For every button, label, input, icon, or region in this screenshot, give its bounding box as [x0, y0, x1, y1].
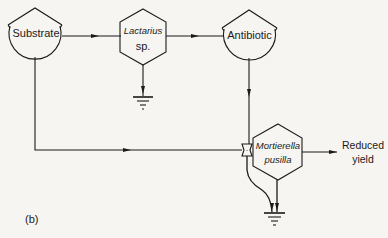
substrate-label: Substrate: [10, 27, 62, 39]
heat-sink-1: [133, 97, 153, 109]
output-label-line1: Reduced: [340, 139, 386, 151]
energy-flow-diagram: - Substrate Lactarius sp. Antibiotic Mor…: [0, 0, 388, 238]
panel-label: (b): [25, 213, 38, 225]
heat-sink-2: [264, 213, 285, 225]
lactarius-hexagon-shape: [120, 9, 166, 65]
lactarius-label-species: sp.: [120, 40, 166, 52]
mortierella-label-species: pusilla: [253, 154, 303, 165]
svg-text:-: -: [246, 147, 248, 153]
output-label-line2: yield: [340, 153, 386, 165]
flow-substrate-workgate: [35, 57, 242, 150]
lactarius-label-genus: Lactarius: [120, 25, 166, 36]
mortierella-label-genus: Mortierella: [253, 140, 303, 151]
mortierella-hexagon-shape: [253, 124, 302, 180]
workgate-shape: -: [242, 144, 252, 156]
antibiotic-label: Antibiotic: [222, 29, 277, 41]
